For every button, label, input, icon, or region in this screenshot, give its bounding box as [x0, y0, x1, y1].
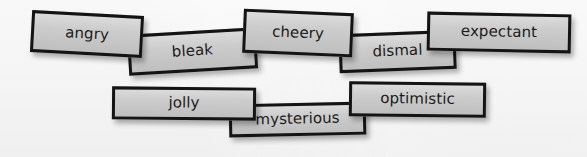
word-card-optimistic[interactable]: optimistic: [349, 81, 486, 118]
word-card-expectant[interactable]: expectant: [427, 12, 572, 54]
word-card-label: expectant: [461, 24, 537, 40]
word-card-scene: angry bleak cheery dismal expectant joll…: [0, 0, 587, 157]
word-card-angry[interactable]: angry: [30, 10, 144, 58]
word-card-label: dismal: [372, 43, 423, 60]
word-card-cheery[interactable]: cheery: [242, 9, 354, 58]
word-card-label: optimistic: [380, 91, 455, 107]
word-card-label: cheery: [272, 24, 324, 41]
word-card-label: bleak: [171, 42, 213, 59]
word-card-label: jolly: [168, 95, 199, 110]
word-card-jolly[interactable]: jolly: [112, 86, 256, 120]
word-card-bleak[interactable]: bleak: [127, 27, 258, 76]
word-card-label: mysterious: [255, 111, 340, 128]
word-card-label: angry: [65, 25, 110, 42]
